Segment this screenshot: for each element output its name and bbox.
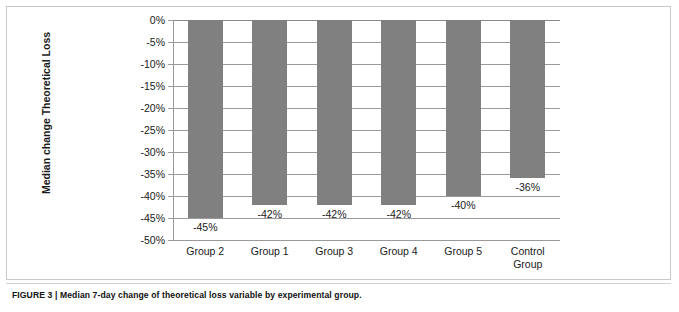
x-axis-category-label: Group 2 (186, 245, 224, 258)
x-axis-category-label: Group 4 (380, 245, 418, 258)
figure-caption-bar: FIGURE 3 | Median 7-day change of theore… (6, 283, 671, 305)
y-axis-tick-label: -5% (146, 36, 165, 48)
y-axis-tick-label: -25% (140, 124, 165, 136)
y-axis-title: Median change Theoretical Loss (40, 23, 52, 203)
bar-value-label: -36% (515, 181, 540, 193)
bar[interactable] (188, 20, 223, 218)
y-axis-tick-label: 0% (150, 14, 165, 26)
bar[interactable] (381, 20, 416, 205)
figure-caption: FIGURE 3 | Median 7-day change of theore… (6, 290, 362, 300)
y-axis-tick-label: -40% (140, 190, 165, 202)
bar[interactable] (252, 20, 287, 205)
y-axis-tick-label: -45% (140, 212, 165, 224)
x-axis-category-label: Group 5 (444, 245, 482, 258)
bar[interactable] (510, 20, 545, 178)
chart-frame: Median change Theoretical Loss 0%-5%-10%… (6, 6, 671, 280)
y-axis-tick-label: -35% (140, 168, 165, 180)
plot-area: 0%-5%-10%-15%-20%-25%-30%-35%-40%-45%-50… (173, 20, 560, 240)
bar[interactable] (446, 20, 481, 196)
bar-value-label: -42% (386, 208, 411, 220)
x-axis-line (173, 240, 560, 241)
bar-value-label: -45% (193, 221, 218, 233)
y-axis-tick-label: -10% (140, 58, 165, 70)
x-axis-category-label: Group 3 (315, 245, 353, 258)
x-axis-category-label: Control Group (511, 245, 545, 271)
x-axis-category-label: Group 1 (251, 245, 289, 258)
figure-container: Median change Theoretical Loss 0%-5%-10%… (0, 0, 679, 312)
bar-value-label: -42% (257, 208, 282, 220)
y-axis-tick-label: -50% (140, 234, 165, 246)
bars-layer: -45%-42%-42%-42%-40%-36% (173, 20, 560, 240)
y-axis-tick-label: -30% (140, 146, 165, 158)
bar-value-label: -42% (322, 208, 347, 220)
y-axis-tick-label: -20% (140, 102, 165, 114)
bar-value-label: -40% (451, 199, 476, 211)
y-axis-tick-label: -15% (140, 80, 165, 92)
bar[interactable] (317, 20, 352, 205)
